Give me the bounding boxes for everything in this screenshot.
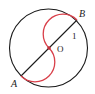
- circle-diagram: B A O 1: [0, 0, 95, 94]
- red-curve-lower: [21, 48, 55, 82]
- label-radius: 1: [72, 31, 77, 41]
- label-B: B: [79, 8, 85, 19]
- label-O: O: [57, 44, 64, 54]
- center-point: [47, 46, 51, 50]
- label-A: A: [10, 78, 18, 89]
